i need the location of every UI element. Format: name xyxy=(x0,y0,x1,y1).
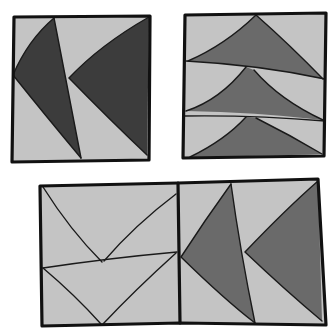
block-bottom xyxy=(40,179,326,326)
block-top-right xyxy=(183,13,326,158)
block-bottom-divider xyxy=(178,183,180,323)
quilt-diagram xyxy=(0,0,335,334)
block-top-left xyxy=(12,16,150,162)
quilt-diagram-svg xyxy=(0,0,335,334)
